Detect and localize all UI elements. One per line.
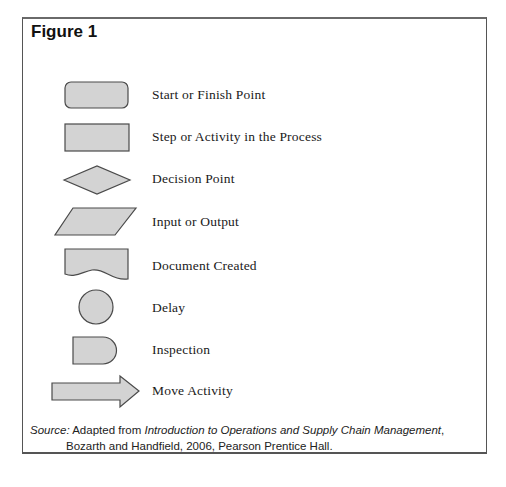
source-comma: ,: [441, 424, 444, 436]
legend-label: Step or Activity in the Process: [152, 129, 322, 145]
source-book-title: Introduction to Operations and Supply Ch…: [144, 424, 441, 436]
legend-label: Start or Finish Point: [152, 87, 265, 103]
legend-label: Inspection: [152, 342, 210, 358]
diamond-icon: [50, 166, 140, 196]
rectangle-icon: [50, 123, 120, 153]
legend-row-document: Document Created: [0, 248, 506, 288]
legend-label: Document Created: [152, 258, 257, 274]
legend-row-inspection: Inspection: [0, 336, 506, 376]
figure-title: Figure 1: [31, 22, 97, 42]
parallelogram-icon: [50, 207, 140, 237]
document-icon: [50, 248, 140, 282]
source-line2: Bozarth and Handfield, 2006, Pearson Pre…: [30, 438, 444, 454]
arrow-icon: [50, 375, 150, 409]
source-prefix: Source:: [30, 424, 70, 436]
source-citation: Source: Adapted from Introduction to Ope…: [30, 422, 444, 454]
d-shape-icon: [50, 336, 140, 366]
legend-label: Decision Point: [152, 171, 235, 187]
legend-label: Input or Output: [152, 214, 239, 230]
source-text: Adapted from: [70, 424, 145, 436]
circle-icon: [50, 288, 140, 328]
legend-label: Delay: [152, 300, 185, 316]
legend-row-decision: Decision Point: [0, 166, 506, 206]
rounded-rectangle-icon: [50, 80, 120, 110]
legend-row-delay: Delay: [0, 288, 506, 328]
legend-label: Move Activity: [152, 383, 233, 399]
legend-row-start-finish: Start or Finish Point: [0, 80, 506, 120]
legend-row-input-output: Input or Output: [0, 207, 506, 247]
legend-row-move: Move Activity: [0, 375, 506, 415]
legend-row-step-activity: Step or Activity in the Process: [0, 123, 506, 163]
